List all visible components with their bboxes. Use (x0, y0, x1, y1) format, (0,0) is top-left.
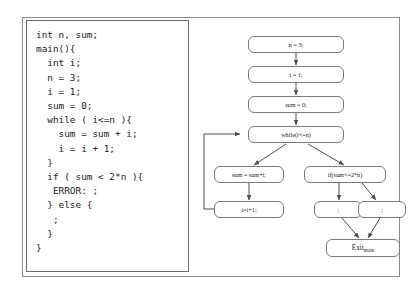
node-i1: i = 1; (248, 66, 344, 83)
edge-skipL-exit (342, 218, 359, 238)
edge-while-sumadd (254, 144, 286, 165)
edge-while-if (308, 144, 344, 165)
node-skip-right: ; (358, 201, 406, 218)
node-i-increment-label: i=i+1; (241, 206, 256, 213)
node-i-increment: i=i+1; (214, 201, 284, 218)
node-n3: n = 3; (248, 36, 344, 53)
edge-if-skipR (362, 183, 376, 200)
node-while-label: while(i<=n) (281, 131, 311, 138)
node-while: while(i<=n) (248, 126, 344, 143)
node-sum0-label: sum = 0; (285, 101, 307, 108)
node-if-condition-label: if(sum<=2*n) (328, 171, 362, 178)
node-skip-left: ; (314, 201, 362, 218)
control-flow-graph: n = 3; i = 1; sum = 0; while(i<=n) sum =… (196, 20, 396, 272)
node-sum-assign: sum = sum+i; (214, 166, 284, 183)
node-skip-right-label: ; (381, 206, 383, 213)
node-exit-sublabel: main (364, 247, 374, 253)
flow-edges (196, 20, 396, 272)
node-i1-label: i = 1; (289, 71, 302, 78)
node-exit-label: Exit (352, 244, 364, 252)
node-sum-assign-label: sum = sum+i; (232, 171, 266, 178)
edge-skipR-exit (368, 218, 380, 238)
node-n3-label: n = 3; (289, 41, 304, 48)
figure-container: int n, sum; main(){ int i; n = 3; i = 1;… (0, 0, 419, 290)
code-listing: int n, sum; main(){ int i; n = 3; i = 1;… (36, 28, 143, 255)
node-skip-left-label: ; (337, 206, 339, 213)
node-sum0: sum = 0; (248, 96, 344, 113)
node-if-condition: if(sum<=2*n) (304, 166, 386, 183)
node-exit-main: Exitmain (326, 239, 400, 257)
code-panel: int n, sum; main(){ int i; n = 3; i = 1;… (26, 20, 189, 272)
